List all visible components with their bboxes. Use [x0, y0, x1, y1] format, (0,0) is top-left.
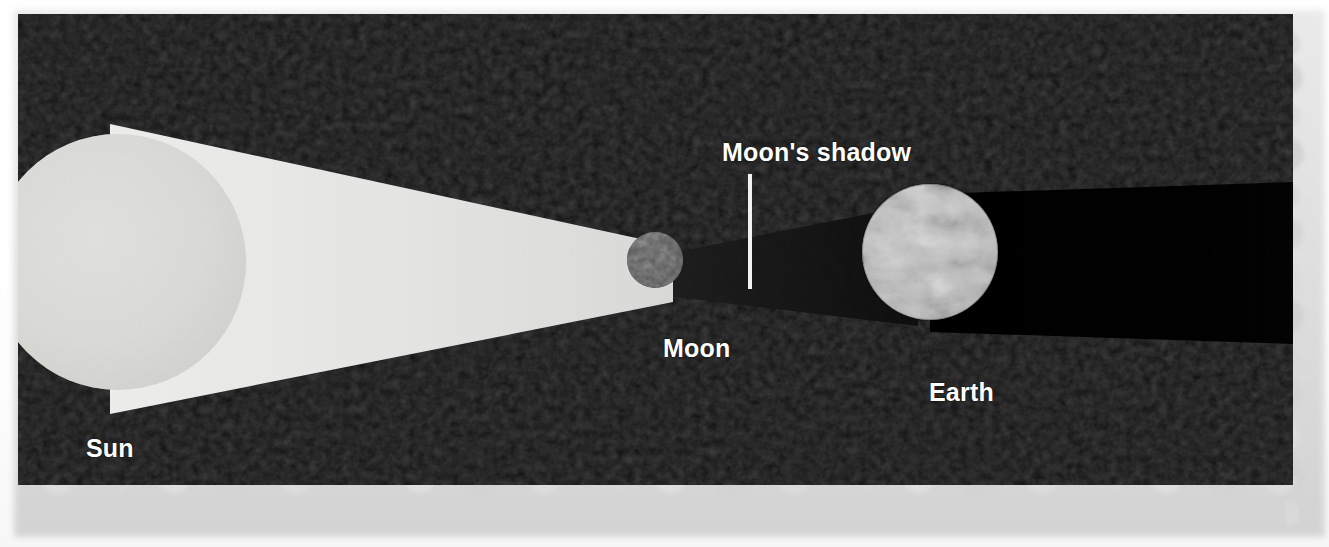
- label-moons-shadow: Moon's shadow: [722, 138, 911, 167]
- moon-body: [627, 232, 683, 288]
- eclipse-diagram-plate: Moon's shadow Sun Moon Earth: [18, 14, 1293, 485]
- earth-body: [862, 184, 998, 320]
- label-earth: Earth: [929, 378, 994, 407]
- label-sun: Sun: [86, 434, 134, 463]
- label-moon: Moon: [663, 334, 730, 363]
- eclipse-scene: [18, 14, 1293, 485]
- moons-shadow-leader-line: [748, 174, 752, 289]
- figure-page: Moon's shadow Sun Moon Earth: [0, 0, 1329, 547]
